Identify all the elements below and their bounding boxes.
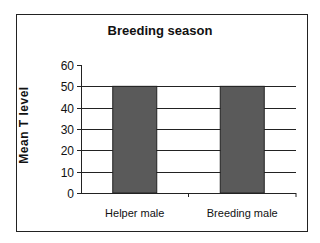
y-tick-label: 40 bbox=[61, 102, 75, 116]
bar bbox=[220, 86, 264, 193]
y-tick-label: 60 bbox=[61, 59, 75, 73]
x-category-label: Breeding male bbox=[207, 207, 278, 219]
y-tick-label: 20 bbox=[61, 144, 75, 158]
y-tick-label: 0 bbox=[67, 187, 74, 201]
y-tick-labels: 0102030405060 bbox=[61, 59, 75, 201]
y-tick-label: 30 bbox=[61, 123, 75, 137]
y-tick-label: 10 bbox=[61, 166, 75, 180]
x-category-labels: Helper maleBreeding male bbox=[105, 207, 278, 219]
plot-area: 0102030405060 Helper maleBreeding male bbox=[0, 0, 320, 243]
y-tick-label: 50 bbox=[61, 80, 75, 94]
bars bbox=[113, 86, 265, 193]
x-category-label: Helper male bbox=[105, 207, 164, 219]
bar bbox=[113, 86, 157, 193]
